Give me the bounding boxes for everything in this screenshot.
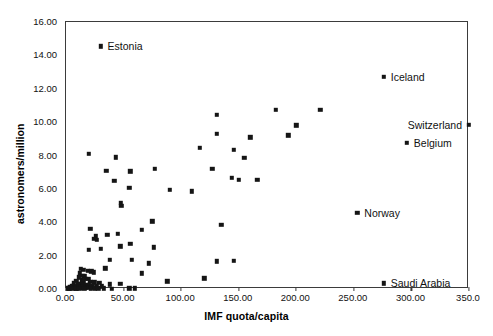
data-point	[405, 141, 409, 145]
y-axis-tick-label: 14.00	[11, 49, 57, 60]
data-points-layer	[66, 22, 467, 287]
x-axis-tick	[238, 287, 239, 291]
data-point	[127, 286, 131, 290]
data-point	[95, 238, 99, 242]
data-point	[98, 247, 102, 251]
data-point	[147, 261, 151, 265]
data-point	[151, 245, 155, 249]
x-axis-tick-label: 250.00	[338, 292, 367, 303]
x-axis-tick	[353, 287, 354, 291]
data-point	[140, 228, 144, 232]
data-point	[129, 258, 133, 262]
y-axis-tick-label: 16.00	[11, 16, 57, 27]
data-point	[112, 178, 116, 182]
data-point	[116, 232, 120, 236]
x-axis-tick-label: 0.00	[56, 292, 75, 303]
y-axis-tick-label: 0.00	[11, 283, 57, 294]
point-annotation-label: Iceland	[391, 71, 425, 83]
data-point	[103, 266, 107, 270]
data-point	[127, 186, 131, 190]
x-axis-tick	[468, 287, 469, 291]
data-point	[248, 135, 252, 139]
data-point	[118, 244, 122, 248]
x-axis-tick-label: 350.0	[456, 292, 480, 303]
plot-area: EstoniaIcelandSwitzerlandBelgiumNorwaySa…	[65, 21, 468, 288]
data-point	[232, 147, 236, 151]
data-point	[110, 286, 114, 290]
data-point	[273, 107, 277, 111]
y-axis-tick-label: 10.00	[11, 116, 57, 127]
x-axis-title: IMF quota/capita	[0, 310, 493, 322]
x-axis-tick-label: 150.00	[223, 292, 252, 303]
data-point	[88, 227, 92, 231]
data-point	[255, 177, 259, 181]
data-point	[382, 281, 386, 285]
x-axis-tick	[296, 287, 297, 291]
data-point	[215, 132, 219, 136]
data-point	[165, 279, 169, 283]
data-point	[140, 271, 144, 275]
y-axis-tick-label: 6.00	[11, 182, 57, 193]
point-annotation-label: Norway	[364, 207, 400, 219]
data-point	[294, 123, 298, 127]
data-point	[242, 156, 246, 160]
data-point	[91, 270, 95, 274]
data-point	[113, 155, 117, 159]
data-point	[215, 112, 219, 116]
data-point	[152, 167, 156, 171]
data-point	[318, 107, 322, 111]
data-point	[128, 242, 132, 246]
x-axis-tick-label: 50.00	[111, 292, 135, 303]
y-axis-tick-label: 4.00	[11, 216, 57, 227]
point-annotation-label: Switzerland	[408, 119, 462, 131]
point-annotation-label: Belgium	[414, 137, 452, 149]
x-axis-tick-label: 300.00	[396, 292, 425, 303]
data-point	[219, 223, 223, 227]
data-point	[215, 259, 219, 263]
data-point	[167, 188, 171, 192]
data-point	[382, 75, 386, 79]
data-point	[232, 258, 236, 262]
data-point	[87, 248, 91, 252]
data-point	[102, 286, 106, 290]
x-axis-tick-label: 100.00	[166, 292, 195, 303]
data-point	[197, 146, 201, 150]
data-point	[210, 167, 214, 171]
data-point	[104, 168, 108, 172]
data-point	[133, 286, 137, 290]
data-point	[230, 176, 234, 180]
x-axis-tick-label: 200.00	[281, 292, 310, 303]
y-axis-tick-label: 8.00	[11, 149, 57, 160]
data-point	[105, 233, 109, 237]
point-annotation-label: Estonia	[108, 40, 143, 52]
data-point	[128, 169, 132, 173]
x-axis-tick	[123, 287, 124, 291]
point-annotation-label: Saudi Arabia	[391, 277, 451, 289]
y-axis-tick-label: 12.00	[11, 82, 57, 93]
data-point	[98, 44, 102, 48]
data-point	[118, 201, 122, 205]
y-axis-tick-label: 2.00	[11, 249, 57, 260]
data-point	[77, 286, 81, 290]
data-point	[467, 122, 471, 126]
data-point	[89, 286, 93, 290]
data-point	[355, 211, 359, 215]
data-point	[202, 276, 206, 280]
data-point	[286, 133, 290, 137]
data-point	[108, 258, 112, 262]
data-point	[96, 286, 100, 290]
data-point	[237, 177, 241, 181]
data-point	[118, 282, 122, 286]
data-point	[87, 152, 91, 156]
x-axis-tick	[181, 287, 182, 291]
data-point	[150, 219, 154, 223]
y-axis-title: astronomers/million	[14, 124, 26, 224]
scatter-chart-figure: astronomers/million 0.002.004.006.008.00…	[0, 0, 493, 336]
data-point	[189, 189, 193, 193]
data-point	[82, 286, 86, 290]
